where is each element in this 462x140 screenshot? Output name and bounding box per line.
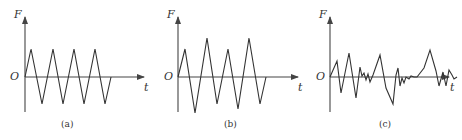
origin-label: O: [10, 70, 19, 83]
origin-label: O: [164, 70, 173, 83]
y-axis-label: F: [318, 8, 327, 21]
panel-b: F O t (b): [164, 8, 303, 129]
origin-label: O: [316, 70, 325, 83]
y-axis-label: F: [166, 8, 175, 21]
x-axis-label: t: [298, 81, 303, 94]
panel-caption: (c): [379, 119, 391, 129]
panel-caption: (a): [61, 119, 73, 129]
panel-a: F O t (a): [10, 8, 149, 129]
y-axis-label: F: [13, 8, 22, 21]
panel-c: F O t (c): [316, 8, 457, 129]
x-axis-label: t: [450, 81, 455, 94]
load-history-diagram: F O t (a) F O t (b) F O t (c): [0, 0, 462, 140]
waveform: [178, 38, 266, 113]
x-axis-label: t: [144, 81, 149, 94]
panel-caption: (b): [224, 119, 237, 129]
